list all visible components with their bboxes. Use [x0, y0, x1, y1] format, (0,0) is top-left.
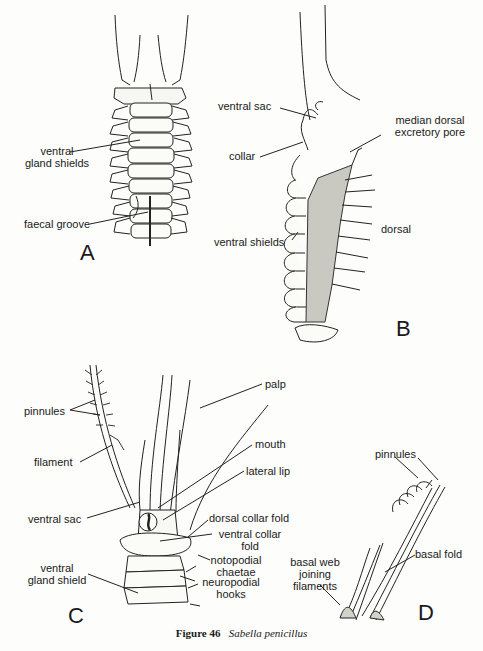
panel-letter-c: C	[68, 603, 84, 629]
figure-caption: Figure 46 Sabella penicillus	[0, 627, 483, 639]
label-text: notopodial	[200, 554, 272, 566]
leader-excretory-pore	[350, 135, 381, 152]
label-text: fold	[210, 540, 290, 552]
label-text: gland shields	[22, 157, 92, 169]
label-ventral-shields: ventral shields	[214, 236, 284, 248]
panel-letter-b: B	[396, 316, 411, 342]
label-text: ventral	[22, 145, 92, 157]
leader-basal-fold	[385, 555, 415, 572]
label-lateral-lip: lateral lip	[246, 465, 290, 477]
label-text: hooks	[195, 588, 267, 600]
label-basal-web-joining-filaments: basal web joining filaments	[285, 556, 345, 592]
label-ventral-gland-shields: ventral gland shields	[22, 145, 92, 169]
label-neuropodial-hooks: neuropodial hooks	[195, 576, 267, 600]
label-text: gland shield	[24, 574, 90, 586]
label-dorsal: dorsal	[381, 223, 411, 235]
label-text: joining	[285, 568, 345, 580]
figure-number: Figure 46	[176, 627, 221, 639]
label-palp: palp	[265, 378, 286, 390]
label-pinnules-c: pinnules	[24, 405, 65, 417]
panel-b-drawing	[284, 5, 375, 342]
label-median-dorsal-excretory-pore: median dorsal excretory pore	[380, 114, 480, 138]
label-collar: collar	[229, 150, 255, 162]
leader-collar	[260, 142, 303, 157]
label-pinnules-d: pinnules	[375, 448, 416, 460]
label-text: excretory pore	[380, 126, 480, 138]
label-faecal-groove: faecal groove	[24, 218, 90, 230]
label-dorsal-collar-fold: dorsal collar fold	[209, 512, 289, 524]
panel-letter-d: D	[418, 600, 434, 626]
label-ventral-gland-shield: ventral gland shield	[24, 562, 90, 586]
label-filament: filament	[34, 456, 73, 468]
label-ventral-collar-fold: ventral collar fold	[210, 528, 290, 552]
label-ventral-sac-b: ventral sac	[218, 100, 271, 112]
figure-species: Sabella penicillus	[229, 627, 308, 639]
label-mouth: mouth	[255, 438, 286, 450]
label-text: basal web	[285, 556, 345, 568]
label-text: neuropodial	[195, 576, 267, 588]
label-text: median dorsal	[380, 114, 480, 126]
leader-mouth	[158, 445, 252, 508]
label-notopodial-chaetae: notopodial chaetae	[200, 554, 272, 578]
label-text: filaments	[285, 580, 345, 592]
leader-palp	[200, 384, 262, 408]
leader-ventral-sac-c	[87, 502, 140, 518]
label-text: ventral collar	[210, 528, 290, 540]
leader-filament	[80, 445, 112, 462]
panel-letter-a: A	[80, 240, 95, 266]
label-basal-fold: basal fold	[415, 548, 462, 560]
label-text: ventral	[24, 562, 90, 574]
label-ventral-sac-c: ventral sac	[28, 513, 81, 525]
leader-pinnules-d	[395, 457, 438, 480]
panel-a-drawing	[110, 15, 192, 246]
